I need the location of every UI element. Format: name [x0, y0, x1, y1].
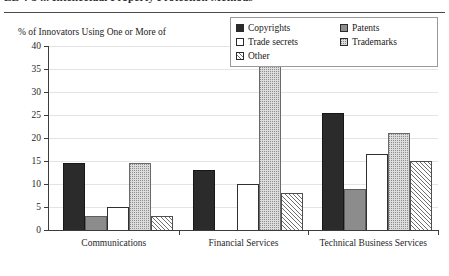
header-rule [4, 12, 445, 13]
x-axis-tick [308, 230, 309, 235]
legend-item-other: Other [236, 51, 340, 61]
legend-label: Patents [352, 23, 379, 33]
bar-patents [344, 189, 366, 230]
bar-copyrights [63, 163, 85, 230]
legend-label: Copyrights [248, 23, 290, 33]
figure-container: LE 4-5 ... Intellectual Property Protect… [0, 0, 449, 276]
y-axis-label: 30 [32, 87, 42, 97]
legend-label: Trade secrets [248, 37, 298, 47]
bar-group [322, 46, 432, 230]
x-axis-tick [179, 230, 180, 235]
bar-other [281, 193, 303, 230]
figure-title-cropped: LE 4-5 ... Intellectual Property Protect… [4, 0, 324, 3]
legend-item-trade-secrets: Trade secrets [236, 37, 340, 47]
y-axis-label: 35 [32, 64, 42, 74]
bar-trade-secrets [107, 207, 129, 230]
hatched-square-icon [236, 52, 244, 60]
plot-area: 0510152025303540 CommunicationsFinancial… [48, 46, 438, 231]
legend-item-patents: Patents [340, 23, 440, 33]
bar-group [63, 46, 173, 230]
filled-square-gray-icon [340, 24, 348, 32]
y-axis-caption: % of Innovators Using One or More of [18, 27, 166, 37]
y-axis-label: 5 [36, 202, 41, 212]
dotted-square-icon [340, 38, 348, 46]
y-axis-label: 40 [32, 41, 42, 51]
empty-square-icon [236, 38, 244, 46]
legend-label: Other [248, 51, 270, 61]
y-axis-label: 10 [32, 179, 42, 189]
x-axis-label: Communications [81, 238, 146, 248]
x-axis-label: Financial Services [209, 238, 279, 248]
bar-other [151, 216, 173, 230]
bar-trademarks [129, 163, 151, 230]
bar-other [410, 161, 432, 230]
y-axis-label: 20 [32, 133, 42, 143]
legend-item-copyrights: Copyrights [236, 23, 340, 33]
bar-group [193, 46, 303, 230]
legend-item-trademarks: Trademarks [340, 37, 440, 47]
filled-square-black-icon [236, 24, 244, 32]
bar-trade-secrets [237, 184, 259, 230]
y-axis-label: 25 [32, 110, 42, 120]
legend-label: Trademarks [352, 37, 397, 47]
y-axis-tick [44, 230, 49, 231]
y-axis-label: 0 [36, 225, 41, 235]
x-axis-tick [438, 230, 439, 235]
bar-groups [49, 46, 438, 230]
bar-trade-secrets [366, 154, 388, 230]
x-axis-label: Technical Business Services [319, 238, 427, 248]
bar-trademarks [388, 133, 410, 230]
y-axis-label: 15 [32, 156, 42, 166]
bar-patents [85, 216, 107, 230]
bar-copyrights [193, 170, 215, 230]
chart-legend: Copyrights Patents Trade secrets Tradema… [230, 17, 438, 67]
bar-trademarks [259, 62, 281, 230]
bar-copyrights [322, 113, 344, 230]
